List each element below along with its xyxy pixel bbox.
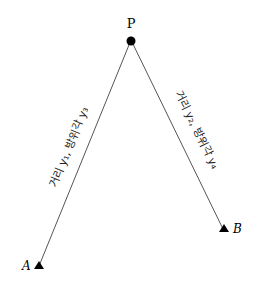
point-B-label: B	[232, 222, 242, 236]
edge-P-A	[39, 40, 131, 266]
point-B-marker-triangle-icon	[219, 224, 229, 232]
point-A-label: A	[21, 259, 31, 273]
edge-P-B	[131, 40, 223, 229]
point-P-label: P	[127, 16, 136, 31]
point-A-marker-triangle-icon	[34, 261, 44, 269]
point-P-marker	[127, 37, 136, 46]
survey-diagram: P A B 거리 y₁, 방위각 y₃ 거리 y₂, 방위각 y₄	[0, 0, 258, 287]
edge-PB-label: 거리 y₂, 방위각 y₄	[172, 88, 222, 171]
edge-PA-label: 거리 y₁, 방위각 y₃	[47, 105, 91, 189]
